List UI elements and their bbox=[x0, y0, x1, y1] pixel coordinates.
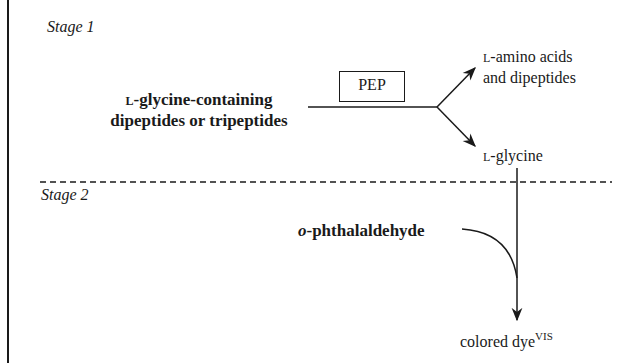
enzyme-box: PEP bbox=[339, 71, 405, 102]
product-upper-line2: and dipeptides bbox=[483, 68, 576, 87]
substrate-line1-text: -glycine-containing bbox=[134, 90, 273, 109]
product-upper-line1: L-amino acids bbox=[483, 47, 576, 68]
reagent-prefix: o bbox=[298, 221, 307, 240]
substrate-line2: dipeptides or tripeptides bbox=[93, 111, 305, 130]
stage2-label: Stage 2 bbox=[41, 186, 89, 204]
reagent-text: -phthalaldehyde bbox=[307, 221, 425, 240]
dye-superscript: VIS bbox=[535, 330, 553, 342]
arrow-to-glycine bbox=[437, 107, 475, 146]
substrate-line1: L-glycine-containing bbox=[93, 90, 305, 111]
reagent-curve bbox=[462, 229, 517, 278]
l-prefix: L bbox=[126, 94, 134, 108]
product-glycine-text: -glycine bbox=[490, 147, 542, 164]
dye-text: colored dye bbox=[460, 333, 535, 350]
enzyme-label: PEP bbox=[358, 76, 386, 93]
arrow-to-amino-acids bbox=[437, 68, 475, 107]
product-upper-line1-text: -amino acids bbox=[490, 48, 572, 65]
substrate-label: L-glycine-containing dipeptides or tripe… bbox=[93, 90, 305, 130]
product-glycine: L-glycine bbox=[483, 146, 543, 167]
product-amino-acids: L-amino acids and dipeptides bbox=[483, 47, 576, 87]
final-product-label: colored dyeVIS bbox=[460, 327, 553, 351]
stage1-label: Stage 1 bbox=[47, 18, 95, 36]
reagent-label: o-phthalaldehyde bbox=[298, 221, 425, 240]
